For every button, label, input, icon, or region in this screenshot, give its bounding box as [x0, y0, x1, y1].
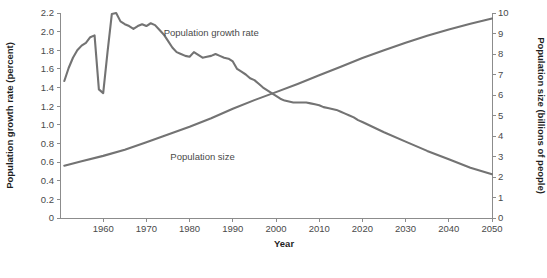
y-axis-title-right: Population size (billions of people) [536, 37, 547, 194]
y-tick-label-left: 0.2 [41, 194, 54, 205]
y-tick-label-right: 9 [498, 28, 503, 39]
x-axis-title: Year [274, 238, 294, 249]
y-tick-label-left: 0 [49, 212, 54, 223]
y-tick-label-left: 0.4 [41, 175, 54, 186]
x-tick-label: 1960 [93, 223, 114, 234]
annotation-label-0: Population growth rate [164, 27, 259, 38]
y-tick-label-left: 1.6 [41, 63, 54, 74]
y-tick-label-right: 10 [498, 7, 509, 18]
series-line-population-growth-rate [64, 13, 492, 174]
annotation-label-1: Population size [170, 151, 234, 162]
y-tick-label-left: 2.0 [41, 26, 54, 37]
axes-layer [57, 13, 496, 222]
y-tick-label-right: 7 [498, 69, 503, 80]
x-tick-label: 2030 [395, 223, 416, 234]
y-tick-label-left: 1.4 [41, 82, 54, 93]
y-tick-label-right: 1 [498, 192, 503, 203]
y-axis-title-left: Population growth rate (percent) [4, 42, 15, 189]
y-tick-label-right: 6 [498, 89, 503, 100]
y-tick-label-left: 1.2 [41, 101, 54, 112]
y-tick-label-right: 8 [498, 48, 503, 59]
x-tick-label: 2050 [481, 223, 502, 234]
y-tick-label-left: 1.0 [41, 119, 54, 130]
x-tick-label: 2020 [352, 223, 373, 234]
x-tick-label: 1990 [222, 223, 243, 234]
y-tick-label-right: 5 [498, 110, 503, 121]
y-tick-label-right: 0 [498, 212, 503, 223]
x-tick-label: 1970 [136, 223, 157, 234]
y-tick-label-right: 4 [498, 130, 503, 141]
chart-svg: 00.20.40.60.81.01.21.41.61.82.02.2012345… [0, 0, 547, 278]
y-tick-label-left: 1.8 [41, 45, 54, 56]
y-tick-label-left: 0.6 [41, 156, 54, 167]
x-tick-label: 1980 [179, 223, 200, 234]
series-line-population-size [64, 19, 492, 166]
y-tick-label-right: 3 [498, 151, 503, 162]
series-layer [64, 13, 492, 174]
x-tick-label: 2010 [309, 223, 330, 234]
x-tick-label: 2000 [265, 223, 286, 234]
y-tick-label-left: 2.2 [41, 7, 54, 18]
x-tick-label: 2040 [438, 223, 459, 234]
y-tick-label-left: 0.8 [41, 138, 54, 149]
population-chart: 00.20.40.60.81.01.21.41.61.82.02.2012345… [0, 0, 547, 278]
y-tick-label-right: 2 [498, 171, 503, 182]
